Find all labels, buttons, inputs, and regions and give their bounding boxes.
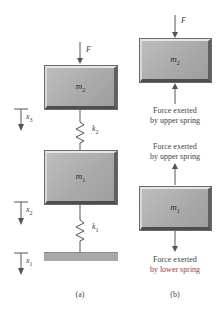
caption-b: (b) xyxy=(165,290,185,300)
mass-m2-block-b: m2 xyxy=(140,39,211,82)
mass-m1-label-b: m1 xyxy=(142,202,208,214)
force-label-b: F xyxy=(181,16,186,26)
mass-m2-label-b: m2 xyxy=(142,54,208,66)
spring-k1 xyxy=(76,204,84,252)
spring-k2 xyxy=(76,109,84,151)
upper-spring-force-label-m1: Force exerted by upper spring xyxy=(135,142,215,162)
force-label-a: F xyxy=(86,45,91,55)
displacement-x3-label: x3 xyxy=(26,112,33,125)
mass-m2-label-a: m2 xyxy=(47,81,114,93)
displacement-x2-label: x2 xyxy=(26,205,33,218)
mass-m1-block-a: m1 xyxy=(45,151,117,204)
spring-k2-label: k2 xyxy=(92,124,99,137)
displacement-x1-label: x1 xyxy=(26,256,33,269)
mass-m2-block-a: m2 xyxy=(45,66,117,109)
caption-a: (a) xyxy=(70,290,90,300)
mass-m1-label-a: m1 xyxy=(47,171,114,183)
upper-spring-force-label-m2: Force exerted by upper spring xyxy=(135,106,215,126)
ground-support xyxy=(44,252,118,261)
mass-m1-block-b: m1 xyxy=(140,187,211,230)
lower-spring-force-label: Force exerted by lower spring xyxy=(135,255,215,275)
spring-k1-label: k1 xyxy=(92,222,99,235)
